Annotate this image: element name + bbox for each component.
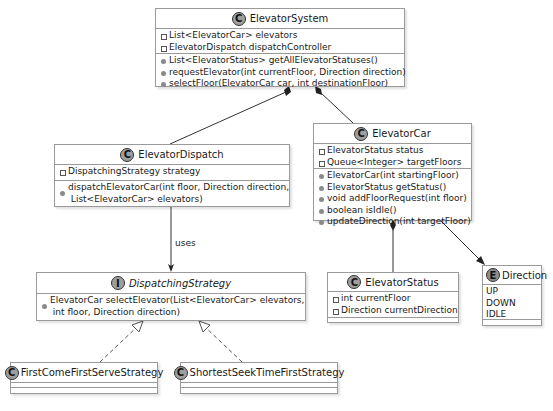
class-elevator-dispatch[interactable]: C ElevatorDispatch DispatchingStrategy s… (54, 144, 290, 207)
attribute: int currentFloor (341, 293, 410, 305)
realization-triangle-icon (132, 321, 143, 332)
public-icon (318, 205, 327, 216)
attribute: List<ElevatorCar> elevators (169, 30, 297, 42)
methods-section: dispatchElevatorCar(int floor, Direction… (55, 181, 289, 206)
public-icon (318, 193, 327, 204)
indent (41, 307, 50, 318)
class-shortest-seek-time-first-strategy[interactable]: C ShortestSeekTimeFirstStrategy (180, 362, 338, 394)
methods-section (181, 388, 337, 393)
attributes-section: List<ElevatorCar> elevators ElevatorDisp… (156, 29, 404, 54)
class-name: ElevatorCar (372, 128, 431, 139)
method: requestElevator(int currentFloor, Direct… (169, 67, 406, 79)
methods-section: ElevatorCar(int startingFloor) ElevatorS… (314, 169, 471, 229)
private-icon (160, 42, 169, 53)
class-icon: C (354, 127, 368, 141)
private-icon (318, 145, 327, 156)
method: List<ElevatorStatus> getAllElevatorStatu… (169, 55, 378, 67)
private-icon (59, 166, 68, 177)
public-icon (160, 67, 169, 78)
public-icon (160, 55, 169, 66)
method: selectFloor(ElevatorCar car, int destina… (169, 78, 388, 90)
class-icon: C (174, 366, 188, 380)
interface-icon: I (111, 276, 125, 290)
class-icon: C (5, 366, 19, 380)
attribute: DispatchingStrategy strategy (68, 166, 200, 178)
attribute: Queue<Integer> targetFloors (327, 157, 461, 169)
public-icon (318, 170, 327, 181)
methods-section: List<ElevatorStatus> getAllElevatorStatu… (156, 54, 404, 91)
attributes-section: DispatchingStrategy strategy (55, 165, 289, 181)
class-elevator-status[interactable]: C ElevatorStatus int currentFloor Direct… (327, 272, 459, 323)
method: updateDirection(int targetFloor) (327, 216, 471, 228)
private-icon (160, 30, 169, 41)
composition-system-car (320, 92, 353, 123)
method: dispatchElevatorCar(int floor, Direction… (68, 182, 289, 194)
class-name: ElevatorDispatch (138, 149, 223, 160)
method: boolean isIdle() (327, 205, 396, 217)
attribute: ElevatorStatus status (327, 145, 424, 157)
enum-name: Direction (502, 270, 547, 281)
class-name: ElevatorSystem (250, 13, 329, 24)
method: void addFloorRequest(int floor) (327, 193, 467, 205)
interface-dispatching-strategy[interactable]: I DispatchingStrategy ElevatorCar select… (36, 272, 306, 321)
realization-triangle-icon (199, 321, 210, 332)
enum-icon: E (486, 268, 500, 282)
class-icon: C (232, 12, 246, 26)
interface-name: DispatchingStrategy (129, 278, 231, 289)
method-continuation: List<ElevatorCar> elevators) (68, 194, 203, 206)
composition-system-dispatch (170, 92, 286, 144)
class-name: ElevatorStatus (365, 277, 438, 288)
public-icon (160, 78, 169, 89)
realization-sstf (204, 326, 242, 362)
public-icon (318, 182, 327, 193)
methods-section: ElevatorCar selectElevator(List<Elevator… (37, 294, 305, 319)
attributes-section: ElevatorStatus status Queue<Integer> tar… (314, 144, 471, 169)
literals-section: UP DOWN IDLE (483, 285, 541, 320)
realization-fcfs (100, 326, 138, 362)
uses-label: uses (175, 238, 196, 248)
class-icon: C (347, 275, 361, 289)
methods-section (11, 388, 157, 393)
attribute: Direction currentDirection (341, 305, 458, 317)
enum-literal: UP (486, 286, 498, 298)
indent (59, 194, 68, 205)
methods-section (328, 318, 458, 320)
enum-literal: DOWN (486, 298, 516, 310)
private-icon (318, 157, 327, 168)
method: ElevatorCar(int startingFloor) (327, 170, 459, 182)
private-icon (332, 293, 341, 304)
class-icon: C (120, 148, 134, 162)
class-name: FirstComeFirstServeStrategy (21, 367, 164, 378)
public-icon (318, 216, 327, 227)
method-continuation: int floor, Direction direction) (50, 307, 180, 319)
method: ElevatorStatus getStatus() (327, 182, 446, 194)
enum-literal: IDLE (486, 309, 506, 321)
class-name: ShortestSeekTimeFirstStrategy (190, 367, 345, 378)
class-elevator-system[interactable]: C ElevatorSystem List<ElevatorCar> eleva… (155, 8, 405, 87)
attribute: ElevatorDispatch dispatchController (169, 42, 331, 54)
class-elevator-car[interactable]: C ElevatorCar ElevatorStatus status Queu… (313, 123, 472, 221)
private-icon (332, 305, 341, 316)
method: ElevatorCar selectElevator(List<Elevator… (50, 295, 304, 307)
class-first-come-first-serve-strategy[interactable]: C FirstComeFirstServeStrategy (10, 362, 158, 394)
enum-direction[interactable]: E Direction UP DOWN IDLE (482, 265, 542, 326)
attributes-section: int currentFloor Direction currentDirect… (328, 292, 458, 318)
